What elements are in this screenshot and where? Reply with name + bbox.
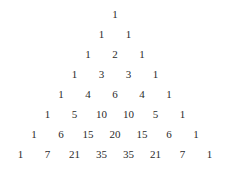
triangle-cell: 6 xyxy=(48,124,75,144)
triangle-cell: 20 xyxy=(102,124,129,144)
triangle-row: 15101051 xyxy=(0,104,230,124)
triangle-row: 121 xyxy=(0,44,230,64)
triangle-cell: 1 xyxy=(61,64,88,84)
triangle-cell: 4 xyxy=(129,84,156,104)
triangle-cell: 21 xyxy=(142,144,169,164)
triangle-cell: 6 xyxy=(156,124,183,144)
triangle-row: 11 xyxy=(0,24,230,44)
triangle-row: 1615201561 xyxy=(0,124,230,144)
triangle-cell: 1 xyxy=(196,144,223,164)
triangle-cell: 4 xyxy=(75,84,102,104)
triangle-cell: 3 xyxy=(115,64,142,84)
triangle-cell: 5 xyxy=(61,104,88,124)
triangle-cell: 1 xyxy=(183,124,210,144)
triangle-row: 172135352171 xyxy=(0,144,230,164)
triangle-cell: 35 xyxy=(88,144,115,164)
triangle-cell: 1 xyxy=(142,64,169,84)
triangle-cell: 1 xyxy=(34,104,61,124)
triangle-cell: 1 xyxy=(102,4,129,24)
triangle-cell: 15 xyxy=(129,124,156,144)
pascals-triangle-figure: 1111211331146411510105116152015611721353… xyxy=(0,0,230,179)
triangle-cell: 5 xyxy=(142,104,169,124)
triangle-row: 1 xyxy=(0,4,230,24)
triangle-body: 1111211331146411510105116152015611721353… xyxy=(0,4,230,164)
triangle-cell: 15 xyxy=(75,124,102,144)
triangle-cell: 35 xyxy=(115,144,142,164)
triangle-cell: 2 xyxy=(102,44,129,64)
triangle-cell: 1 xyxy=(129,44,156,64)
triangle-cell: 10 xyxy=(88,104,115,124)
triangle-row: 14641 xyxy=(0,84,230,104)
triangle-cell: 1 xyxy=(75,44,102,64)
triangle-cell: 1 xyxy=(115,24,142,44)
triangle-row: 1331 xyxy=(0,64,230,84)
triangle-cell: 1 xyxy=(88,24,115,44)
triangle-cell: 10 xyxy=(115,104,142,124)
triangle-cell: 1 xyxy=(156,84,183,104)
triangle-cell: 7 xyxy=(169,144,196,164)
triangle-cell: 21 xyxy=(61,144,88,164)
triangle-cell: 1 xyxy=(169,104,196,124)
triangle-cell: 1 xyxy=(7,144,34,164)
triangle-cell: 7 xyxy=(34,144,61,164)
triangle-cell: 3 xyxy=(88,64,115,84)
triangle-cell: 1 xyxy=(21,124,48,144)
triangle-cell: 6 xyxy=(102,84,129,104)
triangle-cell: 1 xyxy=(48,84,75,104)
